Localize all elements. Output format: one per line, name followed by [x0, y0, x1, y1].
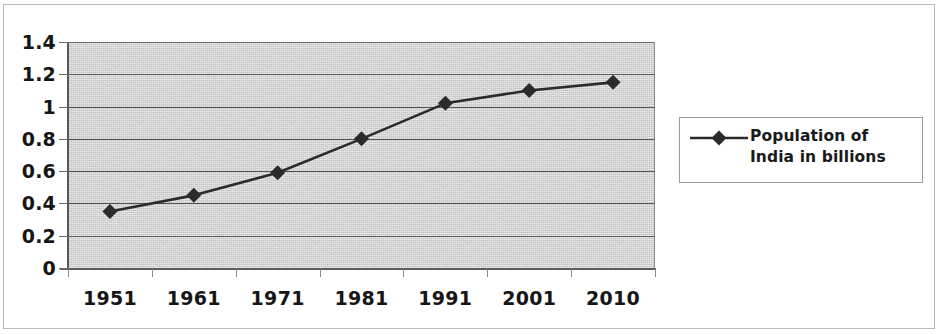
x-axis-tick	[152, 269, 153, 277]
x-axis-line	[60, 268, 656, 270]
y-axis-tick-label: 1.4	[2, 33, 56, 52]
gridline	[68, 139, 655, 140]
y-axis-tick-label: 0.6	[2, 162, 56, 181]
x-axis-tick-label: 1981	[317, 289, 407, 308]
y-axis-tick	[59, 107, 68, 108]
y-axis-tick	[59, 139, 68, 140]
x-axis-tick-label: 2001	[484, 289, 574, 308]
plot-background-texture	[68, 42, 655, 268]
x-axis-tick	[68, 269, 69, 277]
y-axis-tick-label: 0.2	[2, 227, 56, 246]
legend-label: Population of India in billions	[750, 126, 910, 169]
x-axis-tick-label: 2010	[568, 289, 658, 308]
x-axis-tick	[236, 269, 237, 277]
y-axis-tick-label: 1.2	[2, 65, 56, 84]
plot-top-border	[68, 42, 655, 43]
x-axis-tick	[487, 269, 488, 277]
gridline	[68, 74, 655, 75]
x-axis-tick	[655, 269, 656, 277]
gridline	[68, 203, 655, 204]
y-axis-tick-label: 0.8	[2, 130, 56, 149]
x-axis-tick-label: 1961	[149, 289, 239, 308]
gridline	[68, 107, 655, 108]
x-axis-tick-label: 1971	[233, 289, 323, 308]
plot-right-border	[654, 42, 655, 268]
legend-entry: Population of India in billions	[680, 126, 922, 169]
x-axis-tick	[571, 269, 572, 277]
y-axis-tick-label: 0	[2, 259, 56, 278]
gridline	[68, 236, 655, 237]
y-axis-tick	[59, 268, 68, 269]
y-axis-tick	[59, 203, 68, 204]
y-axis-tick-label: 1	[2, 98, 56, 117]
gridline	[68, 171, 655, 172]
x-axis-tick	[320, 269, 321, 277]
y-axis-tick	[59, 171, 68, 172]
legend: Population of India in billions	[679, 117, 923, 183]
x-axis-tick-label: 1951	[65, 289, 155, 308]
y-axis-tick	[59, 42, 68, 43]
x-axis-tick-label: 1991	[400, 289, 490, 308]
y-axis-tick	[59, 74, 68, 75]
plot-area	[68, 42, 655, 268]
x-axis-tick	[403, 269, 404, 277]
y-axis-tick-label: 0.4	[2, 194, 56, 213]
y-axis-tick	[59, 236, 68, 237]
diamond-marker-icon	[688, 127, 750, 149]
chart-figure: 00.20.40.60.811.21.4 1951196119711981199…	[0, 0, 940, 334]
